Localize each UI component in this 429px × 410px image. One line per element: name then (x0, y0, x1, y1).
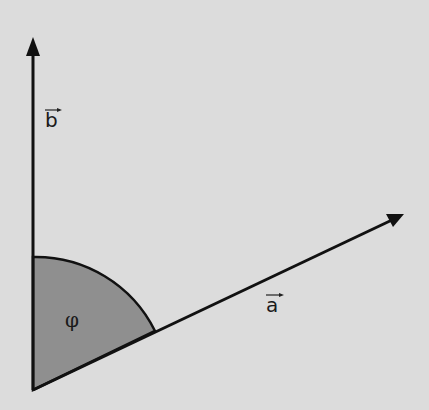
vector-b-label-arrowhead (57, 108, 62, 112)
vector-a-label-arrowhead (279, 293, 284, 297)
vector-b-label: b (45, 108, 58, 132)
vector-diagram (0, 0, 429, 410)
vector-b-arrowhead (26, 37, 40, 56)
vector-a-label: a (266, 293, 278, 317)
angle-sector (33, 257, 155, 390)
angle-label: φ (65, 308, 79, 332)
